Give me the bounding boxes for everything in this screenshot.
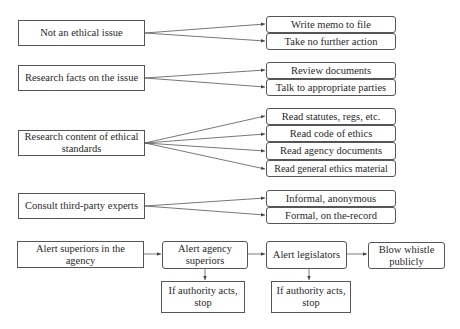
research-standards-box: Research content of ethical standards [18,130,145,156]
consult-experts-box: Consult third-party experts [18,193,145,219]
write-memo-box: Write memo to file [266,16,396,33]
take-no-action-box: Take no further action [266,33,396,50]
formal-on-record-box: Formal, on the-record [266,207,396,224]
read-general-ethics-box: Read general ethics material [266,160,396,177]
read-statutes-box: Read statutes, regs, etc. [266,108,396,125]
talk-to-parties-box: Talk to appropriate parties [266,79,396,96]
read-agency-documents-box: Read agency documents [266,142,396,160]
alert-agency-superiors-box: Alert agency superiors [162,241,248,269]
not-ethical-issue-box: Not an ethical issue [18,20,145,46]
informal-anonymous-box: Informal, anonymous [266,190,396,207]
review-documents-box: Review documents [266,62,396,79]
blow-whistle-box: Blow whistle publicly [368,242,445,269]
alert-legislators-box: Alert legislators [266,241,347,269]
research-facts-box: Research facts on the issue [18,65,145,91]
read-code-of-ethics-box: Read code of ethics [266,125,396,142]
authority-acts-stop-box-2: If authority acts, stop [271,281,351,313]
alert-superiors-box: Alert superiors in the agency [17,241,144,268]
authority-acts-stop-box-1: If authority acts, stop [161,281,245,313]
